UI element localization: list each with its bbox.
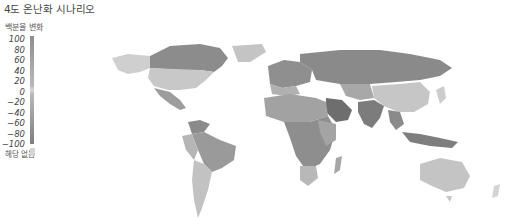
region-south-africa [300,166,318,186]
region-north-africa [264,94,328,122]
region-canada [150,44,228,72]
region-central-asia [340,84,374,100]
no-data-swatch [30,148,35,156]
region-indonesia [402,132,458,148]
legend-tick: 60 [0,56,25,65]
world-map [80,20,514,224]
legend-tick: 40 [0,67,25,76]
region-mexico [154,88,186,110]
region-saudi-arabia [326,98,352,122]
legend-tick: −20 [0,98,25,107]
region-colombia-venezuela [188,120,210,134]
legend-tick: −60 [0,119,25,128]
legend-title: 백분율 변화 [5,21,43,32]
legend-tick: 100 [0,35,25,44]
legend-tick: −80 [0,130,25,139]
region-usa [148,68,214,90]
region-tasmania [446,196,452,202]
region-alaska [112,54,150,74]
region-australia [420,158,470,192]
legend-tick: 20 [0,77,25,86]
legend-tick: −40 [0,109,25,118]
region-new-zealand [492,184,500,198]
region-greenland [232,44,266,62]
legend-color-bar [30,36,34,144]
region-india [358,100,384,128]
region-japan [436,86,446,104]
region-madagascar [334,156,342,174]
region-russia [300,50,452,84]
chart-title: 4도 온난화 시나리오 [4,1,95,16]
region-se-asia [388,110,404,130]
legend-tick: 0 [0,88,25,97]
legend-tick: 80 [0,46,25,55]
